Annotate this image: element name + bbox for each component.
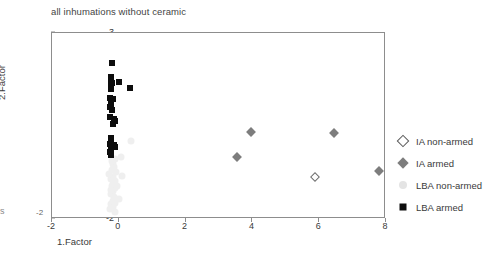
data-point — [110, 96, 116, 102]
data-point — [110, 121, 116, 127]
data-point — [329, 128, 339, 138]
y-axis-title: 2.Factor — [0, 65, 7, 100]
data-point — [108, 86, 114, 92]
data-point — [246, 127, 256, 137]
data-point — [109, 183, 116, 190]
legend-item-label: LBA armed — [416, 202, 463, 213]
legend-item-label: IA armed — [416, 158, 454, 169]
data-point — [109, 160, 116, 167]
data-point — [107, 149, 113, 155]
data-point — [109, 188, 116, 195]
x-axis-tick-label: 8 — [382, 221, 387, 231]
data-point — [111, 156, 118, 163]
data-point — [107, 114, 113, 120]
legend-item-label: IA non-armed — [416, 136, 473, 147]
legend-marker-icon — [396, 156, 410, 170]
data-point — [109, 173, 116, 180]
data-point — [127, 85, 133, 91]
plot-frame — [51, 32, 385, 218]
edge-text-fragment: s — [0, 206, 5, 216]
data-point — [110, 180, 117, 187]
x-axis-tick-mark — [318, 218, 319, 222]
legend-item: IA non-armed — [396, 130, 501, 152]
data-point — [111, 193, 118, 200]
legend-item-label: LBA non-armed — [416, 180, 482, 191]
data-point — [108, 191, 115, 198]
data-point — [105, 170, 112, 177]
data-point — [107, 104, 113, 110]
data-point — [112, 178, 119, 185]
data-point — [107, 186, 114, 193]
data-point — [116, 79, 122, 85]
data-point — [109, 158, 116, 165]
data-point — [116, 196, 123, 203]
data-point — [108, 135, 114, 141]
data-point — [111, 185, 118, 192]
data-point — [113, 169, 120, 176]
legend-marker-icon — [396, 134, 410, 148]
data-point — [111, 208, 118, 215]
data-point — [112, 144, 118, 150]
data-point — [108, 175, 115, 182]
x-axis-tick-label: 2 — [182, 221, 187, 231]
data-point — [128, 138, 135, 145]
data-point — [374, 166, 384, 176]
legend-item: LBA non-armed — [396, 174, 501, 196]
data-point — [108, 146, 114, 152]
data-point — [232, 152, 242, 162]
legend-item: IA armed — [396, 152, 501, 174]
data-point — [111, 163, 118, 170]
data-point — [111, 142, 117, 148]
data-point — [109, 60, 115, 66]
x-axis-tick-mark — [51, 218, 52, 222]
data-point — [118, 153, 125, 160]
data-point — [108, 98, 114, 104]
x-axis-tick-mark — [118, 218, 119, 222]
data-point — [107, 201, 114, 208]
data-point — [107, 141, 113, 147]
data-point — [112, 118, 118, 124]
data-point — [110, 204, 117, 211]
data-point — [108, 101, 114, 107]
x-axis-tick-label: 4 — [249, 221, 254, 231]
legend-marker-icon — [396, 178, 410, 192]
x-axis-tick-label: 0 — [115, 221, 120, 231]
data-point — [108, 78, 114, 84]
data-point — [108, 74, 114, 80]
data-point — [109, 80, 115, 86]
data-point — [310, 172, 320, 182]
data-point — [109, 198, 116, 205]
data-point — [108, 152, 114, 158]
data-point — [108, 83, 114, 89]
chart-title: all inhumations without ceramic — [51, 6, 186, 17]
data-point — [108, 138, 114, 144]
x-axis-tick-mark — [251, 218, 252, 222]
x-axis-tick-mark — [185, 218, 186, 222]
x-axis-tick-label: 6 — [316, 221, 321, 231]
data-point — [112, 200, 119, 207]
data-point — [107, 95, 113, 101]
data-point — [119, 173, 126, 180]
legend-marker-icon — [396, 200, 410, 214]
data-point — [109, 166, 116, 173]
chart-legend: IA non-armedIA armedLBA non-armedLBA arm… — [396, 130, 501, 218]
legend-item: LBA armed — [396, 196, 501, 218]
data-point — [109, 107, 115, 113]
x-axis-tick-mark — [385, 218, 386, 222]
plot-area — [52, 33, 384, 217]
y-axis-corner-label: -2 — [36, 208, 43, 217]
x-axis-title: 1.Factor — [57, 236, 92, 247]
x-axis-tick-label: -2 — [47, 221, 55, 231]
data-point — [113, 182, 120, 189]
data-point — [111, 116, 117, 122]
data-point — [107, 206, 114, 213]
